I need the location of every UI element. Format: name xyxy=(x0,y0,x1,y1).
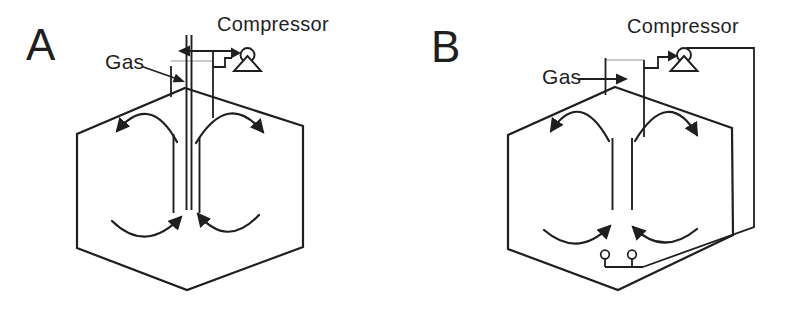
flow-arrow-top-left-b xyxy=(551,112,609,141)
gas-arrowhead-b xyxy=(616,74,628,85)
sparger-b xyxy=(601,250,643,267)
compressor-inlet-arrowhead-b xyxy=(668,51,678,62)
sparger-nozzle-left-b xyxy=(601,250,610,259)
sparger-nozzle-right-b xyxy=(628,250,637,259)
diagram-b-label: B xyxy=(431,22,461,71)
reactor-diagrams-canvas: A Compressor Gas xyxy=(0,0,790,322)
flow-arrow-bottom-left-a xyxy=(112,217,181,237)
flow-arrow-bottom-right-a xyxy=(198,214,259,232)
vessel-a-outline xyxy=(77,88,303,290)
flow-arrow-bottom-left-b xyxy=(544,226,610,244)
compressor-base-triangle-a xyxy=(234,56,261,71)
external-loop-pipe-b xyxy=(643,48,754,267)
compressor-label-b: Compressor xyxy=(627,15,739,37)
diagram-a: A Compressor Gas xyxy=(26,13,329,290)
diagram-a-label: A xyxy=(26,20,56,69)
gas-arrowhead-a xyxy=(173,74,185,82)
flow-arrow-top-right-a xyxy=(196,113,263,143)
compressor-icon-b xyxy=(668,48,698,71)
compressor-step-connector-b xyxy=(644,57,668,68)
flow-arrow-bottom-right-b xyxy=(633,227,697,243)
flow-arrow-top-left-a xyxy=(117,114,177,142)
compressor-icon-a xyxy=(231,48,261,72)
diagram-b: B Compressor Gas xyxy=(431,15,754,290)
compressor-base-triangle-b xyxy=(671,56,698,71)
scanned-figure: A Compressor Gas xyxy=(0,0,790,322)
gas-label-b: Gas xyxy=(542,65,581,88)
compressor-inlet-arrowhead-a xyxy=(231,48,241,59)
into-pipe-arrowhead-a xyxy=(178,46,190,57)
compressor-step-connector-a xyxy=(213,58,232,67)
compressor-label-a: Compressor xyxy=(217,13,329,35)
vessel-b-outline xyxy=(508,87,733,290)
gas-label-a: Gas xyxy=(105,50,144,73)
